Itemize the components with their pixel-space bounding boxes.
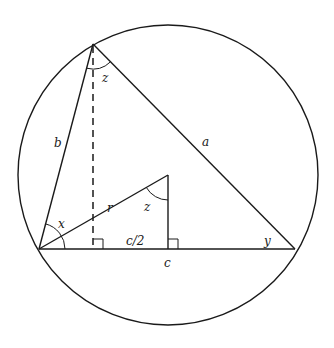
label-side-c: c [164, 256, 171, 270]
label-radius-r: r [107, 201, 114, 215]
label-angle-z-top: z [101, 71, 109, 85]
label-angle-y: y [263, 234, 271, 248]
side-a [93, 44, 295, 249]
label-half-c: c/2 [126, 234, 144, 248]
side-b [39, 44, 93, 249]
geometry-diagram: b a r x z z c/2 c y [0, 0, 334, 348]
angle-arc-z-top [87, 62, 111, 69]
right-angle-marker-altitude [93, 239, 103, 249]
label-angle-x: x [58, 217, 65, 231]
label-angle-z-center: z [143, 200, 151, 214]
right-angle-marker-midpoint [168, 239, 178, 249]
label-side-b: b [54, 136, 62, 150]
angle-arc-z-center [146, 187, 168, 200]
label-side-a: a [202, 135, 209, 149]
